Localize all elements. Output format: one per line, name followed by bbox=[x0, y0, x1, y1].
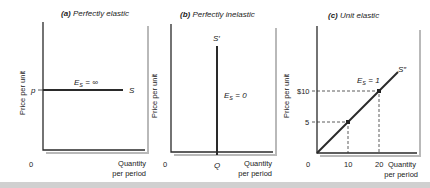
panel-c-frame bbox=[320, 30, 420, 156]
panel-c-title: (c) Unit elastic bbox=[328, 11, 379, 20]
panel-a-curve-label: S bbox=[129, 86, 135, 95]
panel-c-point-10-5 bbox=[346, 120, 350, 124]
panel-b-quantity-label: Q bbox=[214, 161, 220, 170]
panel-a-price-label: p bbox=[30, 86, 36, 95]
panel-c-xlabel-2: per period bbox=[384, 170, 418, 179]
panel-b-elasticity-label: ES = 0 bbox=[224, 91, 247, 101]
bottom-rule bbox=[0, 182, 430, 188]
panel-a-title: (a) Perfectly elastic bbox=[61, 9, 129, 18]
elasticity-diagram: (a) Perfectly elastic Price per unit p S… bbox=[0, 0, 430, 188]
panel-c-elasticity-label: ES = 1 bbox=[357, 76, 380, 86]
panel-c-xtick-10: 10 bbox=[344, 160, 352, 169]
panel-c-point-20-10 bbox=[377, 89, 381, 93]
panel-b-axes bbox=[171, 24, 273, 152]
panel-a-origin: 0 bbox=[29, 160, 33, 169]
panel-b-title: (b) Perfectly inelastic bbox=[180, 10, 255, 19]
panel-b-curve-label: S′ bbox=[213, 34, 220, 43]
panel-b-xlabel-2: per period bbox=[238, 169, 272, 178]
panel-b-xlabel-1: Quantity bbox=[244, 159, 272, 168]
panel-b-origin: 0 bbox=[163, 160, 167, 169]
panel-b: (b) Perfectly inelastic Price per unit S… bbox=[150, 10, 276, 178]
panel-c: (c) Unit elastic Price per unit $10 5 10… bbox=[282, 11, 420, 179]
panel-c-axes bbox=[317, 26, 417, 153]
panel-c-ytick-10: $10 bbox=[297, 87, 310, 96]
panel-c-ytick-5: 5 bbox=[305, 118, 309, 127]
panel-c-curve-label: S″ bbox=[398, 65, 407, 74]
panel-c-xtick-20: 20 bbox=[375, 160, 383, 169]
panel-a-ylabel: Price per unit bbox=[18, 70, 27, 115]
panel-c-origin: 0 bbox=[306, 160, 310, 169]
panel-a: (a) Perfectly elastic Price per unit p S… bbox=[18, 9, 148, 178]
panel-a-xlabel-2: per period bbox=[112, 169, 146, 178]
panel-a-xlabel-1: Quantity bbox=[118, 159, 146, 168]
panel-c-xlabel-1: Quantity bbox=[388, 160, 416, 169]
panel-a-elasticity-label: ES = ∞ bbox=[74, 78, 98, 88]
panel-b-ylabel: Price per unit bbox=[150, 73, 159, 118]
panel-c-ylabel: Price per unit bbox=[282, 73, 291, 118]
